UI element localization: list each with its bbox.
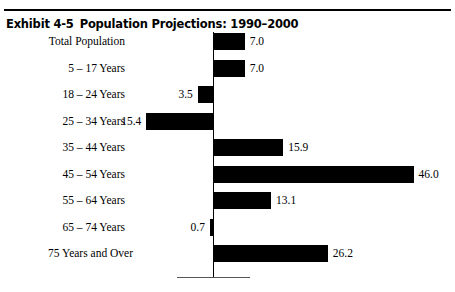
exhibit-number: Exhibit 4-5 xyxy=(6,17,74,31)
bar-value-label: 15.9 xyxy=(288,139,308,156)
category-label: 45 – 54 Years xyxy=(0,166,125,183)
bar xyxy=(214,33,244,50)
category-label: 55 – 64 Years xyxy=(0,192,125,209)
bar-value-label: 7.0 xyxy=(250,60,264,77)
plot-area: Total Population7.05 – 17 Years7.018 – 2… xyxy=(0,32,455,282)
baseline-tick xyxy=(177,277,250,278)
category-label: Total Population xyxy=(0,33,125,50)
category-label: 35 – 44 Years xyxy=(0,139,125,156)
chart-row: 18 – 24 Years3.5 xyxy=(0,85,455,112)
category-label: 18 – 24 Years xyxy=(0,86,125,103)
bar-value-label: 13.1 xyxy=(276,192,296,209)
bar xyxy=(214,60,244,77)
category-label: 65 – 74 Years xyxy=(0,219,125,236)
category-label: 25 – 34 Years xyxy=(0,113,125,130)
bar-value-label: 3.5 xyxy=(178,86,192,103)
bar xyxy=(210,219,213,236)
bar xyxy=(146,113,213,130)
chart-row: 75 Years and Over26.2 xyxy=(0,244,455,271)
bar xyxy=(198,86,213,103)
bar xyxy=(214,192,271,209)
chart-row: 55 – 64 Years13.1 xyxy=(0,191,455,218)
bar xyxy=(214,166,413,183)
bar xyxy=(214,245,327,262)
chart-header: Exhibit 4-5Population Projections: 1990–… xyxy=(6,14,446,29)
bar-value-label: 26.2 xyxy=(333,245,353,262)
chart-row: Total Population7.0 xyxy=(0,32,455,59)
page-title: Population Projections: 1990–2000 xyxy=(80,17,299,31)
category-label: 5 – 17 Years xyxy=(0,60,125,77)
bar-value-label: 46.0 xyxy=(419,166,439,183)
bar xyxy=(214,139,283,156)
chart-row: 65 – 74 Years0.7 xyxy=(0,218,455,245)
bar-value-label: 7.0 xyxy=(250,33,264,50)
chart-row: 5 – 17 Years7.0 xyxy=(0,59,455,86)
chart-row: 25 – 34 Years15.4 xyxy=(0,112,455,139)
chart-row: 45 – 54 Years46.0 xyxy=(0,165,455,192)
bar-value-label: 15.4 xyxy=(121,113,141,130)
title-divider xyxy=(4,9,451,11)
category-label: 75 Years and Over xyxy=(0,245,133,262)
exhibit-chart: Exhibit 4-5Population Projections: 1990–… xyxy=(0,0,455,292)
bar-value-label: 0.7 xyxy=(191,219,205,236)
chart-row: 35 – 44 Years15.9 xyxy=(0,138,455,165)
